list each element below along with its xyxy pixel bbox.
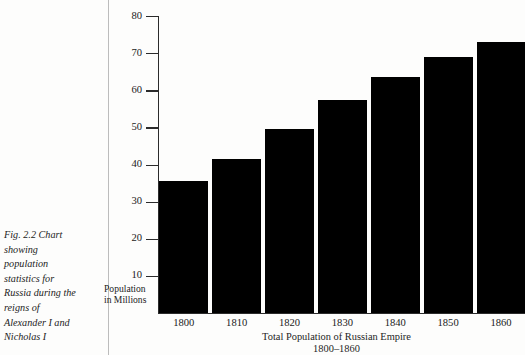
y-tick-label: 30 (104, 196, 142, 207)
y-tick-mark (146, 90, 158, 91)
y-tick-label: 20 (104, 233, 142, 244)
bar-1840 (371, 77, 420, 313)
x-axis-tick-labels: 1800181018201830184018501860 (159, 317, 525, 328)
bar-1850 (424, 57, 473, 313)
figure-caption: Fig. 2.2 Chart showing population statis… (4, 228, 104, 345)
bar-series (159, 0, 525, 313)
chart-title-line1: Total Population of Russian Empire (148, 331, 525, 343)
figure-page: Fig. 2.2 Chart showing population statis… (0, 0, 525, 355)
x-axis-line (158, 313, 525, 314)
y-tick-mark (146, 165, 158, 166)
y-axis-label-line2: in Millions (104, 294, 154, 305)
y-tick-label: 70 (104, 48, 142, 59)
y-tick-mark (146, 16, 158, 17)
bar-1820 (265, 129, 314, 313)
bar-1810 (212, 159, 261, 313)
bar-chart: 1020304050607080 Population in Millions … (108, 0, 525, 355)
caption-line: population (4, 257, 104, 272)
y-tick-mark (146, 127, 158, 128)
caption-line: Fig. 2.2 Chart (4, 228, 104, 243)
chart-title: Total Population of Russian Empire 1800–… (148, 331, 525, 354)
x-tick-label: 1800 (159, 317, 208, 328)
y-tick-label: 10 (104, 270, 142, 281)
caption-line: Russia during the (4, 286, 104, 301)
y-axis-label-line1: Population (104, 283, 154, 294)
y-tick-label: 50 (104, 122, 142, 133)
caption-line: statistics for (4, 272, 104, 287)
y-tick-mark (146, 276, 158, 277)
bar-1830 (318, 100, 367, 314)
x-tick-label: 1830 (318, 317, 367, 328)
y-tick-label: 40 (104, 159, 142, 170)
caption-line: reigns of (4, 301, 104, 316)
x-tick-label: 1840 (371, 317, 420, 328)
y-tick-label: 80 (104, 11, 142, 22)
y-axis-label: Population in Millions (104, 283, 154, 305)
bar-1800 (159, 181, 208, 313)
x-tick-label: 1850 (424, 317, 473, 328)
bar-1860 (477, 42, 525, 313)
x-tick-label: 1810 (212, 317, 261, 328)
y-tick-label: 60 (104, 85, 142, 96)
caption-line: Nicholas I (4, 330, 104, 345)
caption-line: showing (4, 243, 104, 258)
caption-line: Alexander I and (4, 316, 104, 331)
x-tick-label: 1820 (265, 317, 314, 328)
y-tick-mark (146, 53, 158, 54)
y-tick-mark (146, 239, 158, 240)
y-tick-mark (146, 202, 158, 203)
x-tick-label: 1860 (477, 317, 525, 328)
chart-title-line2: 1800–1860 (148, 343, 525, 355)
